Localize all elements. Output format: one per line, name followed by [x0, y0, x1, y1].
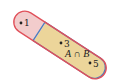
element-dot-3 — [60, 42, 63, 45]
element-dot-1 — [20, 22, 23, 25]
intersection-label: A ∩ B — [64, 48, 89, 59]
element-label-5: 5 — [93, 59, 99, 69]
element-label-1: 1 — [24, 18, 30, 28]
element-dot-5 — [89, 62, 92, 65]
venn-diagram: 1 3 A ∩ B 5 — [0, 0, 123, 83]
